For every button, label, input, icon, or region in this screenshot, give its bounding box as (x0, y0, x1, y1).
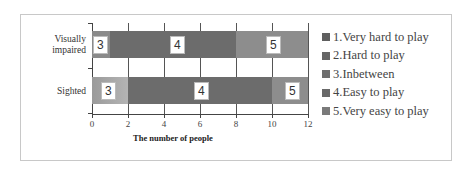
legend-swatch-icon (322, 70, 330, 78)
bar-segment-inbetween: 3 (92, 31, 110, 58)
chart-plot-area: Visually impaired Sighted 3 4 5 3 4 5 0 … (0, 0, 469, 169)
legend-item-hard: 2.Hard to play (322, 47, 429, 66)
x-tick (272, 114, 273, 118)
x-tick (200, 114, 201, 118)
legend-item-easy: 4.Easy to play (322, 84, 429, 103)
gridline-12 (308, 23, 309, 114)
data-label: 3 (101, 82, 116, 100)
data-label: 4 (170, 36, 185, 54)
legend-label: 2.Hard to play (333, 48, 405, 63)
bar-sighted: 3 4 5 (92, 77, 308, 104)
legend-item-inbetween: 3.Inbetween (322, 65, 429, 84)
data-label: 5 (266, 36, 281, 54)
bar-segment-easy: 4 (110, 31, 236, 58)
x-tick-label: 6 (190, 119, 210, 129)
legend: 1.Very hard to play 2.Hard to play 3.Inb… (322, 28, 429, 121)
legend-label: 5.Very easy to play (333, 104, 429, 119)
y-tick (88, 23, 92, 24)
bar-segment-inbetween: 3 (92, 77, 128, 104)
legend-label: 3.Inbetween (333, 67, 394, 82)
legend-label: 4.Easy to play (333, 85, 404, 100)
legend-item-very-easy: 5.Very easy to play (322, 102, 429, 121)
bar-segment-very-easy: 5 (236, 31, 308, 58)
data-label: 4 (194, 82, 209, 100)
legend-swatch-icon (322, 33, 330, 41)
y-tick (88, 68, 92, 69)
category-label-line: impaired (52, 45, 86, 56)
x-tick-label: 4 (154, 119, 174, 129)
bar-visually-impaired: 3 4 5 (92, 31, 308, 58)
x-tick (128, 114, 129, 118)
x-tick (236, 114, 237, 118)
x-tick (308, 114, 309, 118)
category-label-visually-impaired: Visually impaired (52, 34, 86, 56)
x-tick-label: 12 (298, 119, 318, 129)
x-tick-label: 8 (226, 119, 246, 129)
legend-swatch-icon (322, 52, 330, 60)
x-axis-title: The number of people (133, 133, 313, 143)
bar-segment-easy: 4 (128, 77, 272, 104)
x-tick-label: 10 (262, 119, 282, 129)
bar-segment-very-easy: 5 (272, 77, 308, 104)
x-tick-label: 2 (118, 119, 138, 129)
legend-swatch-icon (322, 89, 330, 97)
category-label-sighted: Sighted (57, 86, 86, 97)
x-tick (92, 114, 93, 118)
x-tick (164, 114, 165, 118)
legend-item-very-hard: 1.Very hard to play (322, 28, 429, 47)
category-label-line: Visually (52, 34, 86, 45)
legend-swatch-icon (322, 107, 330, 115)
x-tick-label: 0 (82, 119, 102, 129)
legend-label: 1.Very hard to play (333, 30, 429, 45)
data-label: 5 (285, 82, 300, 100)
data-label: 3 (93, 36, 108, 54)
